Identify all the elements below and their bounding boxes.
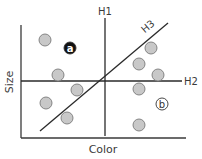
data-point xyxy=(40,97,52,109)
hyperplane-diagram: H1H2H3 ab Color Size xyxy=(0,0,202,159)
y-axis-label: Size xyxy=(3,70,16,93)
hyperplane-label-h1: H1 xyxy=(98,6,112,17)
data-point xyxy=(52,69,64,81)
data-point xyxy=(61,112,73,124)
x-axis-label: Color xyxy=(89,143,118,156)
data-point xyxy=(133,83,145,95)
data-point xyxy=(39,34,51,46)
hyperplane-label-h2: H2 xyxy=(184,76,198,87)
data-point xyxy=(71,84,83,96)
hyperplane-label-h3: H3 xyxy=(139,18,157,35)
data-point xyxy=(145,42,157,54)
data-point xyxy=(133,119,145,131)
data-point xyxy=(133,58,145,70)
labeled-point-label-b: b xyxy=(159,99,165,110)
data-point xyxy=(152,69,164,81)
labeled-point-label-a: a xyxy=(67,43,74,54)
